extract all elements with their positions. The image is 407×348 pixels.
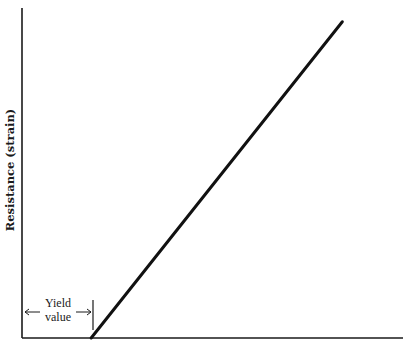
chart: Resistance (strain) Yield value (0, 0, 407, 348)
yield-label-line2: value (45, 310, 71, 324)
right-arrow-icon (76, 309, 91, 315)
yield-label-line1: Yield (45, 296, 71, 310)
series-line-segment (91, 22, 342, 338)
left-arrow-icon (25, 309, 40, 315)
series-layer (91, 22, 342, 338)
yield-annotation: Yield value (25, 296, 93, 330)
y-axis-label: Resistance (strain) (3, 109, 17, 232)
